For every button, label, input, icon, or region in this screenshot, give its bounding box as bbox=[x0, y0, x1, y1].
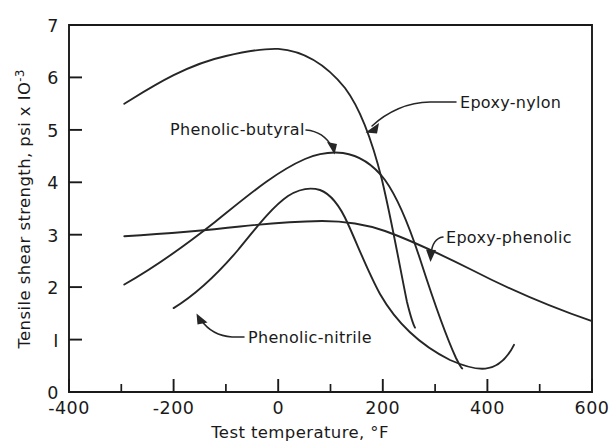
x-tick-label-4: 400 bbox=[470, 398, 505, 418]
x-axis-title-group: Test temperature, °F bbox=[210, 423, 389, 442]
label-epoxy-phenolic: Epoxy-phenolic bbox=[446, 228, 572, 247]
x-axis-title: Test temperature, °F bbox=[210, 423, 389, 442]
y-axis-title: Tensile shear strength, psi x IO bbox=[15, 82, 34, 350]
y-tick-label-1: I bbox=[53, 331, 59, 351]
y-tick-label-7: 7 bbox=[47, 16, 59, 36]
x-tick-label-2: 0 bbox=[272, 398, 284, 418]
chart-background bbox=[0, 0, 615, 448]
label-phenolic-butyral: Phenolic-butyral bbox=[170, 120, 305, 139]
y-axis-title-group: Tensile shear strength, psi x IO-3 bbox=[13, 69, 34, 349]
x-tick-label-5: 600 bbox=[575, 398, 610, 418]
x-tick-label-3: 200 bbox=[365, 398, 400, 418]
x-tick-label-1: -200 bbox=[153, 398, 195, 418]
label-phenolic-nitrile: Phenolic-nitrile bbox=[248, 328, 372, 347]
chart-svg: 0 I 2 3 4 5 6 7 -400 -200 0 200 400 600 … bbox=[0, 0, 615, 448]
label-epoxy-nylon: Epoxy-nylon bbox=[460, 93, 561, 112]
y-tick-label-2: 2 bbox=[47, 278, 59, 298]
svg-text:Tensile shear strength, psi x: Tensile shear strength, psi x IO-3 bbox=[13, 69, 34, 349]
x-tick-label-0: -400 bbox=[48, 398, 90, 418]
chart-figure: 0 I 2 3 4 5 6 7 -400 -200 0 200 400 600 … bbox=[0, 0, 615, 448]
y-axis-title-exponent: -3 bbox=[13, 69, 27, 81]
y-tick-label-4: 4 bbox=[47, 173, 59, 193]
y-tick-label-3: 3 bbox=[47, 226, 59, 246]
y-tick-label-5: 5 bbox=[47, 121, 59, 141]
y-tick-label-6: 6 bbox=[47, 68, 59, 88]
